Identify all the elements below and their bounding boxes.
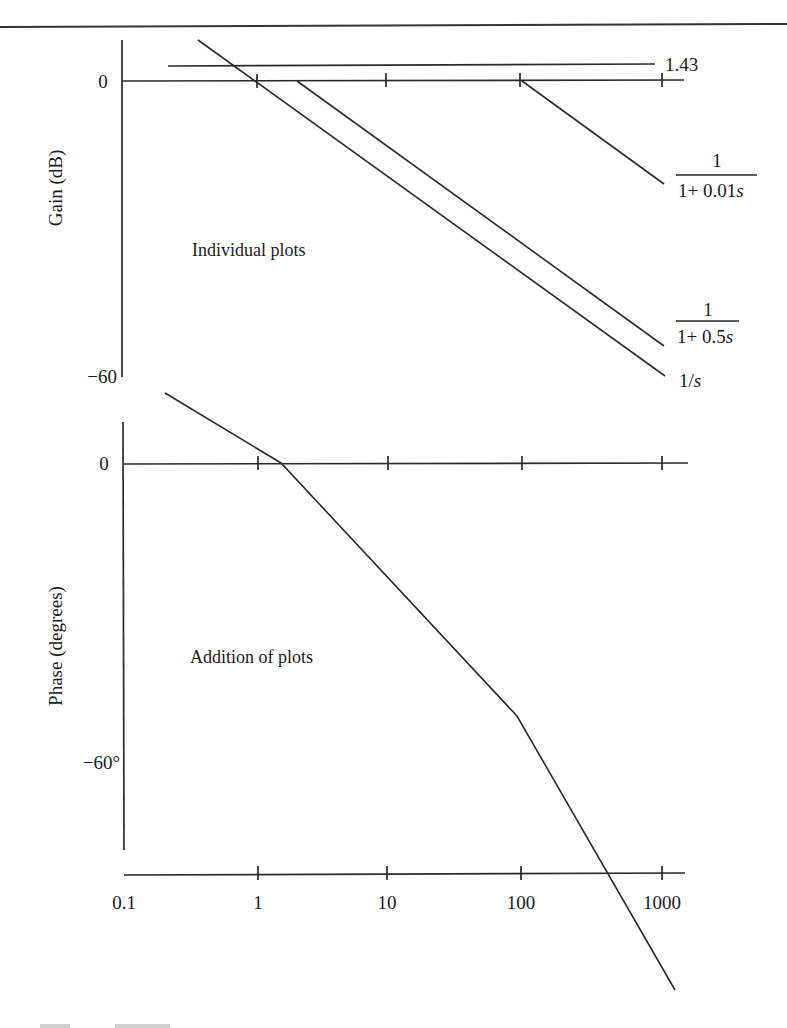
- gain-y-label: Gain (dB): [45, 150, 67, 227]
- phase-y-axis: [123, 422, 124, 850]
- gain-label-const: 1.43: [665, 54, 698, 75]
- gain-label-integrator: 1/s: [679, 370, 701, 391]
- gain-line-pole-001: [522, 81, 664, 184]
- svg-text:1+ 0.01s: 1+ 0.01s: [678, 180, 744, 201]
- phase-annotation: Addition of plots: [190, 647, 313, 667]
- svg-text:10: 10: [378, 892, 397, 913]
- svg-text:1000: 1000: [643, 892, 681, 913]
- gain-zero-axis: [122, 80, 684, 81]
- svg-text:100: 100: [507, 892, 536, 913]
- phase-ytick-min: −60°: [83, 752, 120, 773]
- svg-text:1: 1: [703, 299, 713, 320]
- gain-ytick-min: −60: [87, 366, 117, 387]
- gain-line-integrator: [198, 40, 665, 376]
- phase-plot: 0 −60° Phase (degrees) Addition of plots…: [45, 393, 688, 990]
- svg-text:0.1: 0.1: [112, 892, 136, 913]
- gain-line-const: [168, 64, 655, 66]
- phase-ytick-zero: 0: [99, 453, 109, 474]
- phase-curve: [165, 393, 675, 990]
- phase-y-label: Phase (degrees): [45, 586, 67, 706]
- caption-cropped: [40, 1024, 170, 1028]
- gain-ytick-zero: 0: [98, 71, 108, 92]
- freq-axis-labels: 0.1 1 10 100 1000: [112, 892, 681, 913]
- svg-text:1: 1: [712, 150, 722, 171]
- gain-label-pole-001: 1 1+ 0.01s: [676, 150, 757, 201]
- svg-text:1: 1: [253, 892, 263, 913]
- bode-figure: 0 −60 Gain (dB) 1.43 1/s 1 1+ 0.5s 1 1+ …: [0, 0, 787, 1028]
- phase-zero-axis: [124, 463, 688, 464]
- gain-annotation: Individual plots: [192, 240, 306, 260]
- gain-line-pole-05: [297, 81, 664, 346]
- page-top-rule: [0, 24, 787, 27]
- freq-axis: [124, 873, 685, 875]
- svg-text:1+ 0.5s: 1+ 0.5s: [677, 326, 733, 347]
- gain-label-pole-05: 1 1+ 0.5s: [676, 299, 739, 347]
- gain-plot: 0 −60 Gain (dB) 1.43 1/s 1 1+ 0.5s 1 1+ …: [45, 40, 757, 391]
